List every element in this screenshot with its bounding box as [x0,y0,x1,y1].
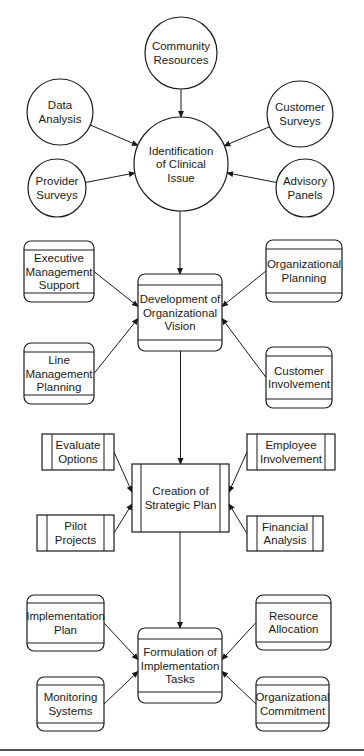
arrow-connector [222,319,266,378]
node-label-line: Tasks [165,673,195,685]
arrow-connector [94,272,138,307]
node-label-line: Analysis [39,113,82,125]
node-label-line: Identification [149,145,214,157]
arrow-connector [229,452,247,492]
node-label-line: Advisory [283,175,327,187]
node-label-line: Planning [37,381,82,393]
node-label-line: Resources [154,54,209,66]
node-label-line: Planning [282,272,327,284]
node-label-line: Employee [265,439,316,451]
node-label-line: Pilot [64,520,87,532]
node-label-line: Provider [36,175,79,187]
node-provider-surveys: ProviderSurveys [28,159,86,217]
node-label-line: Executive [34,252,84,264]
node-executive-management-support: ExecutiveManagementSupport [24,241,94,302]
node-label-line: Formulation of [143,646,217,658]
node-label-line: Organizational [255,691,329,703]
node-development-of-organizational-vision: Development ofOrganizationalVision [138,274,222,351]
node-label-line: Organizational [267,258,341,270]
node-label-line: Vision [164,320,195,332]
node-label-line: Customer [274,365,324,377]
node-label-line: Monitoring [44,691,98,703]
node-label-line: Evaluate [56,439,101,451]
node-label-line: Systems [48,705,92,717]
node-customer-surveys: CustomerSurveys [267,81,333,147]
node-label-line: Management [25,368,93,380]
arrow-connector [114,452,132,492]
node-label-line: Commitment [260,705,326,717]
node-label-line: Implementation [26,610,105,622]
node-identification-of-clinical-issue: Identificationof ClinicalIssue [134,117,228,211]
node-label-line: Analysis [264,534,307,546]
arrow-connector [94,319,138,374]
node-label-line: Development of [140,293,221,305]
node-organizational-commitment: OrganizationalCommitment [255,677,329,731]
node-label-line: Organizational [143,307,217,319]
node-label-line: Panels [287,189,322,201]
node-label-line: of Clinical [156,158,206,170]
node-label-line: Allocation [269,623,319,635]
clinical-planning-flowchart: Identificationof ClinicalIssueCommunityR… [0,0,364,756]
node-label-line: Data [48,99,73,111]
node-label-line: Line [48,354,70,366]
node-label-line: Resource [269,610,318,622]
node-label-line: Management [25,266,93,278]
arrow-connector [227,173,276,183]
arrow-connector [222,271,266,307]
arrow-connector [114,504,132,533]
arrow-connector [222,672,256,705]
node-implementation-plan: ImplementationPlan [26,595,105,651]
node-organizational-planning: OrganizationalPlanning [266,240,342,302]
node-label-line: Projects [55,534,97,546]
node-layer: Identificationof ClinicalIssueCommunityR… [24,17,342,731]
node-label-line: Financial [262,521,308,533]
node-financial-analysis: FinancialAnalysis [247,516,323,551]
arrow-connector [222,623,256,660]
arrow-connector [104,672,138,705]
arrow-connector [85,173,134,183]
node-community-resources: CommunityResources [145,17,217,89]
node-evaluate-options: EvaluateOptions [42,434,114,470]
node-label-line: Creation of [152,485,209,497]
node-label-line: Involvement [260,453,323,465]
node-label-line: Support [39,279,80,291]
node-monitoring-systems: MonitoringSystems [37,677,104,731]
arrow-connector [224,127,269,146]
arrow-connector [90,125,137,145]
node-label-line: Community [152,40,210,52]
node-advisory-panels: AdvisoryPanels [276,159,334,217]
node-data-analysis: DataAnalysis [27,79,93,145]
node-line-management-planning: LineManagementPlanning [24,343,94,404]
node-label-line: Plan [54,624,77,636]
diagram-canvas: Identificationof ClinicalIssueCommunityR… [0,0,364,756]
node-label-line: Issue [167,172,195,184]
node-creation-of-strategic-plan: Creation ofStrategic Plan [132,464,229,532]
node-label-line: Customer [275,101,325,113]
node-customer-involvement: CustomerInvolvement [266,347,332,408]
node-label-line: Surveys [36,189,78,201]
node-label-line: Implementation [141,660,220,672]
node-label-line: Surveys [279,115,321,127]
node-employee-involvement: EmployeeInvolvement [247,434,335,470]
node-resource-allocation: ResourceAllocation [256,595,331,650]
node-label-line: Options [58,453,98,465]
arrow-connector [104,623,138,660]
node-label-line: Strategic Plan [145,499,217,511]
node-formulation-of-implementation-tasks: Formulation ofImplementationTasks [138,628,222,703]
arrow-connector [229,504,247,534]
node-pilot-projects: PilotProjects [37,515,114,551]
node-label-line: Involvement [268,378,331,390]
